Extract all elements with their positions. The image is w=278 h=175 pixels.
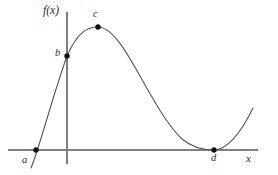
marked-point-a	[33, 147, 38, 152]
graph-canvas	[0, 0, 278, 175]
y-axis-label: f(x)	[43, 5, 59, 17]
marked-point-b	[64, 53, 69, 58]
marked-point-c	[95, 24, 100, 29]
function-graph-figure: f(x) x a b c d	[0, 0, 278, 175]
marked-point-group	[33, 24, 216, 152]
x-axis-label: x	[246, 153, 251, 164]
point-label-d: d	[211, 153, 216, 164]
point-label-b: b	[55, 48, 60, 59]
point-label-c: c	[93, 9, 98, 20]
point-label-a: a	[22, 155, 27, 166]
function-curve	[31, 27, 253, 168]
